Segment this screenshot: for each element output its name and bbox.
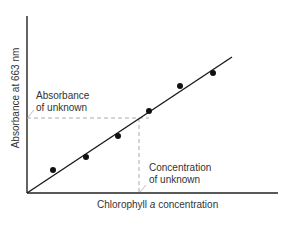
data-point [50,167,56,173]
data-point [177,83,183,89]
annotation-line: of unknown [149,174,211,186]
x-axis-label: Chlorophyll a concentration [97,199,218,210]
concentration-unknown-annotation: Concentration of unknown [149,162,211,186]
absorbance-leader [28,110,34,117]
absorbance-unknown-annotation: Absorbance of unknown [36,90,89,114]
x-label-text: Chlorophyll [97,199,150,210]
data-point [210,70,216,76]
data-point [146,108,152,114]
y-axis-label: Absorbance at 663 nm [10,48,21,149]
annotation-line: of unknown [36,102,89,114]
annotation-line: Concentration [149,162,211,174]
data-point [83,154,89,160]
data-point [115,133,121,139]
data-points [50,70,216,173]
annotation-line: Absorbance [36,90,89,102]
x-label-text: concentration [155,199,218,210]
concentration-leader [140,185,146,192]
